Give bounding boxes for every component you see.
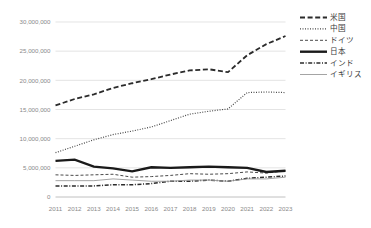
- x-tick-label: 2013: [87, 205, 101, 212]
- x-tick-label: 2016: [144, 205, 158, 212]
- legend-label: 中国: [330, 23, 346, 33]
- x-tick-label: 2015: [125, 205, 139, 212]
- y-tick-label: 20,000,000: [20, 77, 52, 84]
- chart-legend: 米国中国ドイツ日本インドイギリス: [300, 12, 362, 79]
- y-tick-label: 5,000,000: [23, 164, 51, 171]
- series-lines-group: [56, 36, 286, 186]
- y-tick-label: 10,000,000: [20, 135, 52, 142]
- y-tick-label: 30,000,000: [20, 18, 52, 25]
- legend-label: 日本: [330, 46, 346, 56]
- legend-label: ドイツ: [330, 36, 354, 45]
- x-tick-label: 2012: [68, 205, 82, 212]
- chart-canvas: 05,000,00010,000,00015,000,00020,000,000…: [0, 0, 371, 228]
- x-tick-label: 2017: [164, 205, 178, 212]
- y-tick-label: 0: [47, 193, 51, 200]
- y-tick-label: 15,000,000: [20, 106, 52, 113]
- series-line: [56, 92, 286, 153]
- legend-label: インド: [330, 59, 354, 68]
- series-line: [56, 36, 286, 105]
- legend-label: 米国: [330, 12, 346, 22]
- line-chart: 05,000,00010,000,00015,000,00020,000,000…: [0, 0, 371, 228]
- legend-label: イギリス: [330, 70, 362, 79]
- gridlines-group: [56, 22, 286, 197]
- x-tick-label: 2020: [221, 205, 235, 212]
- x-tick-label: 2018: [183, 205, 197, 212]
- x-tick-label: 2023: [279, 205, 293, 212]
- series-line: [56, 171, 286, 177]
- x-tick-label: 2021: [240, 205, 254, 212]
- x-tick-label: 2019: [202, 205, 216, 212]
- series-line: [56, 160, 286, 172]
- x-tick-label: 2022: [259, 205, 273, 212]
- y-axis-tick-labels: 05,000,00010,000,00015,000,00020,000,000…: [20, 18, 52, 200]
- y-tick-label: 25,000,000: [20, 47, 52, 54]
- x-tick-label: 2011: [49, 205, 63, 212]
- x-tick-label: 2014: [106, 205, 120, 212]
- x-axis-tick-labels: 2011201220132014201520162017201820192020…: [49, 205, 293, 212]
